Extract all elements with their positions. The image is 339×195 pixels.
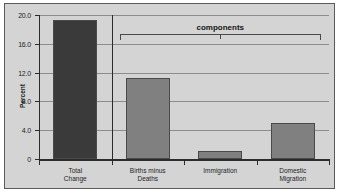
y-tick-label: 8.0 (22, 98, 31, 105)
x-tick-label: Births minus Deaths (112, 167, 185, 183)
x-tick-mark (329, 161, 330, 165)
y-tick-label: 16.0 (18, 40, 31, 47)
bar (198, 151, 242, 159)
x-tick-label: Immigration (184, 167, 257, 175)
components-bracket-tick (220, 34, 221, 39)
chart-figure: Percent 04.08.012.016.020.0 Total Change… (0, 0, 339, 195)
x-tick-label: Domestic Migration (257, 167, 330, 183)
components-annotation-label: components (120, 23, 321, 32)
x-tick-mark (257, 161, 258, 165)
y-tick-label: 4.0 (22, 127, 31, 134)
chart-panel: Percent 04.08.012.016.020.0 Total Change… (4, 3, 335, 189)
x-tick-mark (184, 161, 185, 165)
bar (53, 20, 97, 159)
x-tick-mark (112, 161, 113, 165)
x-tick-mark (39, 161, 40, 165)
y-tick-label: 0 (27, 156, 31, 163)
bar (271, 123, 315, 159)
group-divider-line (112, 15, 113, 161)
y-tick-label: 12.0 (18, 69, 31, 76)
x-tick-label: Total Change (39, 167, 112, 183)
y-tick-label: 20.0 (18, 12, 31, 19)
bar (126, 78, 170, 159)
